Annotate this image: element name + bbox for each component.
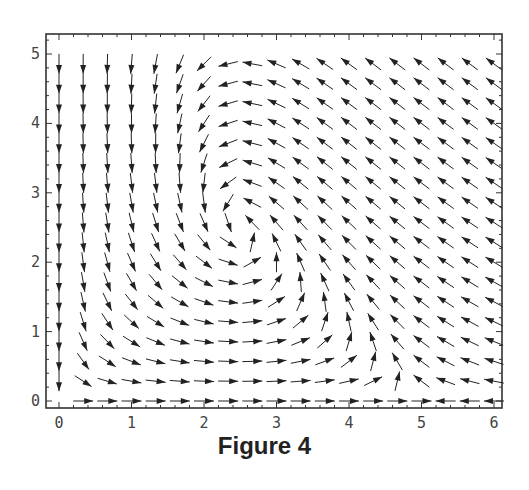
field-arrow [80,193,86,213]
field-arrow [56,54,62,74]
field-arrow [218,279,238,285]
field-arrow [219,101,238,107]
field-arrow [486,78,502,90]
field-arrow [267,60,285,68]
field-arrow [99,356,116,367]
field-arrow [295,234,307,250]
field-arrow [438,78,454,90]
field-arrow [177,153,183,173]
field-arrow [343,274,355,290]
field-arrow [218,299,238,305]
field-arrow [438,98,454,110]
field-arrow [172,276,188,289]
y-tick-label: 3 [31,184,40,202]
field-arrow [438,58,454,70]
field-arrow [56,272,62,292]
field-arrow [218,61,237,67]
field-arrow [242,398,262,404]
field-arrow [315,378,335,384]
field-arrow [104,173,110,193]
field-arrow [243,100,263,106]
field-arrow [414,236,430,248]
field-arrow [242,319,262,325]
field-arrow [77,353,89,369]
field-arrow [104,74,110,94]
field-arrow [200,134,209,152]
field-arrow [218,398,238,404]
field-arrow [273,252,279,272]
field-arrow [315,358,334,365]
field-arrow [194,339,214,345]
field-arrow [341,137,357,149]
field-arrow [390,275,405,288]
field-arrow [317,176,332,189]
field-arrow [129,133,135,153]
field-arrow [173,255,186,270]
field-arrow [346,312,352,332]
field-arrow [291,338,310,346]
field-arrow [242,378,262,384]
field-arrow [317,58,334,69]
x-tick-label: 4 [344,414,353,432]
field-arrow [341,355,357,367]
field-arrow [390,236,405,249]
field-arrow [80,74,86,94]
field-arrow [267,99,285,108]
field-arrow [243,160,262,166]
field-arrow [147,317,164,327]
field-arrow [56,153,62,173]
field-arrow [245,215,259,229]
field-arrow [80,292,86,312]
field-arrow [486,58,502,70]
field-arrow [462,217,479,228]
field-arrow [365,117,381,129]
y-tick-label: 2 [31,253,40,271]
field-arrow [414,197,430,209]
field-arrow [218,339,238,345]
x-tick-label: 3 [272,414,281,432]
field-arrow [485,297,503,306]
field-arrow [153,113,159,133]
field-arrow [297,253,305,271]
field-arrow [293,177,309,190]
field-arrow [243,198,261,207]
field-arrow [366,275,380,290]
field-arrow [177,173,183,193]
field-arrow [341,157,357,170]
field-arrow [365,58,381,70]
field-arrow [364,377,382,386]
field-arrow [105,213,111,233]
field-arrow [346,332,352,351]
field-arrow [152,233,160,251]
field-arrow [395,371,401,390]
field-arrow [266,378,286,384]
field-arrow [73,398,93,404]
field-arrow [366,216,381,229]
field-arrow [389,117,405,129]
field-arrow [461,277,478,287]
field-arrow [146,398,166,404]
field-arrow [438,177,454,189]
field-arrow [104,54,110,74]
field-arrow [218,81,237,87]
field-arrow [436,398,456,404]
field-arrow [294,215,308,230]
field-arrow [414,78,430,90]
y-tick-label: 4 [31,114,40,132]
field-arrow [436,378,455,385]
field-arrow [461,297,478,307]
field-arrow [461,237,478,248]
field-arrow [198,96,210,112]
field-arrow [104,94,110,114]
field-arrow [267,80,285,88]
field-arrow [437,316,454,327]
field-arrow [414,58,430,70]
field-arrow [80,312,86,331]
field-arrow [291,358,311,364]
field-arrow [297,293,305,311]
field-arrow [486,157,502,168]
field-arrow [218,378,238,384]
field-arrow [201,173,207,193]
field-arrow [129,173,135,193]
field-arrow [153,54,159,74]
